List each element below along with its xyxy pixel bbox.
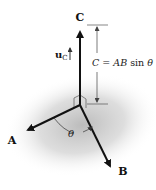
plane-shadow (0, 60, 156, 190)
label-b: B (118, 165, 127, 178)
formula-angle: θ (147, 57, 153, 68)
unit-vector-label: uC (55, 49, 68, 62)
cross-product-diagram: C A B uC C = AB sin θ θ (0, 0, 156, 190)
label-c: C (76, 11, 85, 24)
magnitude-formula: C = AB sin θ (92, 57, 153, 68)
angle-theta-label: θ (68, 128, 74, 139)
unit-vector-subscript: C (62, 54, 67, 62)
formula-eq: = (99, 57, 113, 68)
unit-vector-base: u (55, 49, 62, 60)
label-a: A (7, 134, 17, 147)
formula-func: sin (127, 57, 147, 68)
formula-vars: AB (112, 57, 127, 68)
